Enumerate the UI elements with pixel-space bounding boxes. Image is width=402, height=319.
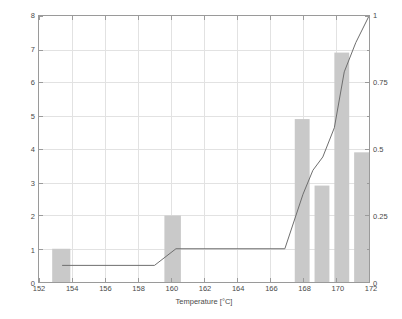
x-axis-tick-label: 162 [199,285,212,293]
y-axis-left-tick-label: 4 [31,146,35,154]
x-axis-tick-label: 168 [298,285,311,293]
x-axis-tick-label: 158 [132,285,145,293]
x-axis-tick-label: 160 [166,285,179,293]
x-axis-tick-label: 166 [265,285,278,293]
y-axis-left-tick-label: 1 [31,247,35,255]
y-axis-right-tick-label: 0.5 [373,146,383,154]
x-axis-tick-label: 156 [99,285,112,293]
plot-area: 012345678 00.250.50.751 1521541561581601… [38,15,370,283]
y-axis-left-tick-label: 7 [31,46,35,54]
x-axis-tick-label: 152 [33,285,46,293]
x-axis-title: Temperature [°C] [38,297,370,306]
x-axis-tick-label: 172 [365,285,378,293]
y-axis-left-tick-label: 2 [31,213,35,221]
y-axis-right-tick-label: 1 [373,12,377,20]
y-axis-left-tick-label: 8 [31,12,35,20]
x-axis-tick-label: 164 [232,285,245,293]
x-axis-tick-label: 170 [332,285,345,293]
x-axis-tick-label: 154 [66,285,79,293]
y-axis-right-tick-label: 0.25 [373,213,388,221]
chart-figure: 012345678 00.250.50.751 1521541561581601… [0,0,402,319]
y-axis-left-tick-label: 5 [31,113,35,121]
y-axis-left-tick-label: 3 [31,180,35,188]
y-axis-left-tick-label: 6 [31,79,35,87]
tick-marks [39,16,369,282]
y-axis-right-tick-label: 0.75 [373,79,388,87]
